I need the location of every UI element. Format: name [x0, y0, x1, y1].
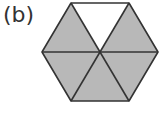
hexagon-diagram — [0, 0, 160, 115]
